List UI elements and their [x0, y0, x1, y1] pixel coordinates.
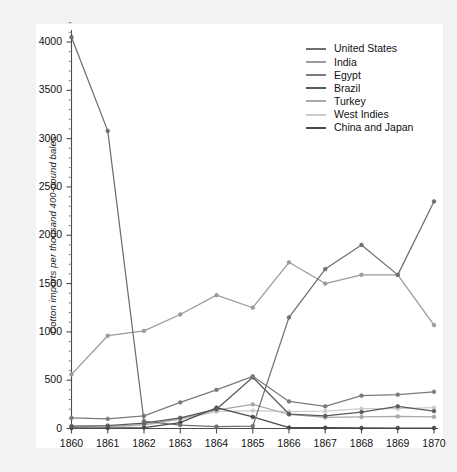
- legend-swatch-icon: [306, 48, 326, 50]
- legend-swatch-icon: [306, 100, 326, 102]
- y-tick-label: 4000: [18, 35, 62, 47]
- legend-swatch-icon: [306, 114, 326, 116]
- legend-label: Brazil: [334, 83, 360, 94]
- legend-label: China and Japan: [334, 122, 413, 133]
- y-tick-label: 1000: [18, 325, 62, 337]
- y-tick-label: 2500: [18, 180, 62, 192]
- y-tick-label: 0: [18, 422, 62, 434]
- legend-label: Turkey: [334, 96, 366, 107]
- legend-item-egypt[interactable]: Egypt: [306, 68, 413, 81]
- chart-legend: United StatesIndiaEgyptBrazilTurkeyWest …: [306, 42, 413, 134]
- chart-figure: Cotton imports per thousand 400-pound ba…: [0, 0, 457, 472]
- legend-label: India: [334, 57, 357, 68]
- legend-label: Egypt: [334, 70, 361, 81]
- legend-item-turkey[interactable]: Turkey: [306, 95, 413, 108]
- legend-item-west-indies[interactable]: West Indies: [306, 108, 413, 121]
- legend-item-india[interactable]: India: [306, 55, 413, 68]
- y-tick-label: 3000: [18, 132, 62, 144]
- x-tick-label: 1870: [408, 437, 457, 449]
- y-tick-label: 2000: [18, 228, 62, 240]
- legend-swatch-icon: [306, 127, 326, 129]
- y-tick-label: 500: [18, 373, 62, 385]
- legend-item-brazil[interactable]: Brazil: [306, 82, 413, 95]
- legend-item-china-and-japan[interactable]: China and Japan: [306, 121, 413, 134]
- legend-swatch-icon: [306, 87, 326, 89]
- y-tick-label: 3500: [18, 83, 62, 95]
- legend-label: United States: [334, 43, 397, 54]
- legend-label: West Indies: [334, 109, 389, 120]
- legend-swatch-icon: [306, 61, 326, 63]
- legend-swatch-icon: [306, 74, 326, 76]
- legend-item-united-states[interactable]: United States: [306, 42, 413, 55]
- y-tick-label: 1500: [18, 277, 62, 289]
